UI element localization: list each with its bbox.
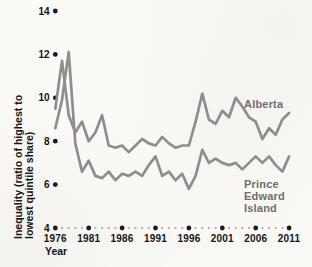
x-axis-minor-dot	[235, 227, 237, 229]
x-axis-minor-dot	[81, 227, 83, 229]
x-axis-minor-dot	[214, 227, 216, 229]
x-tick-label: 2011	[278, 233, 301, 244]
pei-label-line2: Edward	[244, 190, 285, 202]
x-axis-minor-dot	[134, 227, 136, 229]
x-axis-title: Year	[45, 245, 67, 257]
x-axis-major-dot	[287, 226, 292, 231]
x-axis-minor-dot	[248, 227, 250, 229]
x-tick-label: 1996	[177, 233, 200, 244]
y-axis-tick-dot	[53, 182, 58, 187]
x-axis-major-dot	[120, 226, 125, 231]
x-axis-minor-dot	[61, 227, 63, 229]
y-tick-label: 14	[38, 6, 50, 17]
y-tick-label: 10	[38, 92, 50, 103]
x-axis-minor-dot	[148, 227, 150, 229]
x-axis-minor-dot	[228, 227, 230, 229]
x-axis-major-dot	[153, 226, 158, 231]
x-axis-major-dot	[53, 226, 58, 231]
x-tick-label: 2006	[244, 233, 267, 244]
x-axis-minor-dot	[201, 227, 203, 229]
x-axis-minor-dot	[128, 227, 130, 229]
pei-label-line1: Prince	[244, 178, 279, 190]
chart-figure: 4681012141976198119861991199620012006201…	[0, 0, 312, 267]
x-axis-major-dot	[86, 226, 91, 231]
y-axis-title: Inequality (ratio of highest to lowest q…	[13, 57, 35, 239]
x-axis-minor-dot	[108, 227, 110, 229]
series-label-prince-edward-island: Prince Edward Island	[244, 178, 285, 214]
x-axis-minor-dot	[74, 227, 76, 229]
x-axis-minor-dot	[168, 227, 170, 229]
x-axis-minor-dot	[241, 227, 243, 229]
x-axis-minor-dot	[141, 227, 143, 229]
x-axis-minor-dot	[268, 227, 270, 229]
x-axis-major-dot	[253, 226, 258, 231]
x-axis-minor-dot	[101, 227, 103, 229]
x-axis-minor-dot	[174, 227, 176, 229]
x-axis-minor-dot	[68, 227, 70, 229]
x-axis-minor-dot	[114, 227, 116, 229]
x-axis-minor-dot	[261, 227, 263, 229]
chart-plot-area: 4681012141976198119861991199620012006201…	[0, 0, 312, 267]
x-axis-major-dot	[220, 226, 225, 231]
x-tick-label: 1976	[44, 233, 67, 244]
x-tick-label: 1991	[144, 233, 167, 244]
y-axis-tick-dot	[53, 52, 58, 57]
x-tick-label: 1986	[111, 233, 134, 244]
x-axis-major-dot	[187, 226, 192, 231]
y-tick-label: 12	[38, 49, 50, 60]
y-axis-tick-dot	[53, 139, 58, 144]
x-tick-label: 1981	[77, 233, 100, 244]
x-axis-minor-dot	[181, 227, 183, 229]
x-axis-minor-dot	[281, 227, 283, 229]
pei-label-line3: Island	[244, 202, 277, 214]
y-axis-title-line2: lowest quintile share)	[23, 132, 35, 239]
x-tick-label: 2001	[211, 233, 234, 244]
y-tick-label: 6	[44, 179, 50, 190]
y-tick-label: 8	[44, 136, 50, 147]
x-axis-minor-dot	[208, 227, 210, 229]
y-axis-tick-dot	[53, 9, 58, 14]
series-label-alberta: Alberta	[244, 98, 283, 110]
x-axis-minor-dot	[161, 227, 163, 229]
x-axis-minor-dot	[275, 227, 277, 229]
x-axis-minor-dot	[94, 227, 96, 229]
x-axis-minor-dot	[194, 227, 196, 229]
